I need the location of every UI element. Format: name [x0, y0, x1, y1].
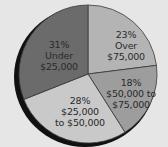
slice-label-25000-to-50000: 28% $25,000 to $50,000: [50, 95, 110, 128]
slice-label-50000-to-75000: 18% $50,000 to $75,000: [101, 77, 161, 110]
slice-label-over-75000: 23% Over $75,000: [101, 29, 151, 62]
slice-label-under-25000: 31% Under $25,000: [34, 39, 84, 72]
